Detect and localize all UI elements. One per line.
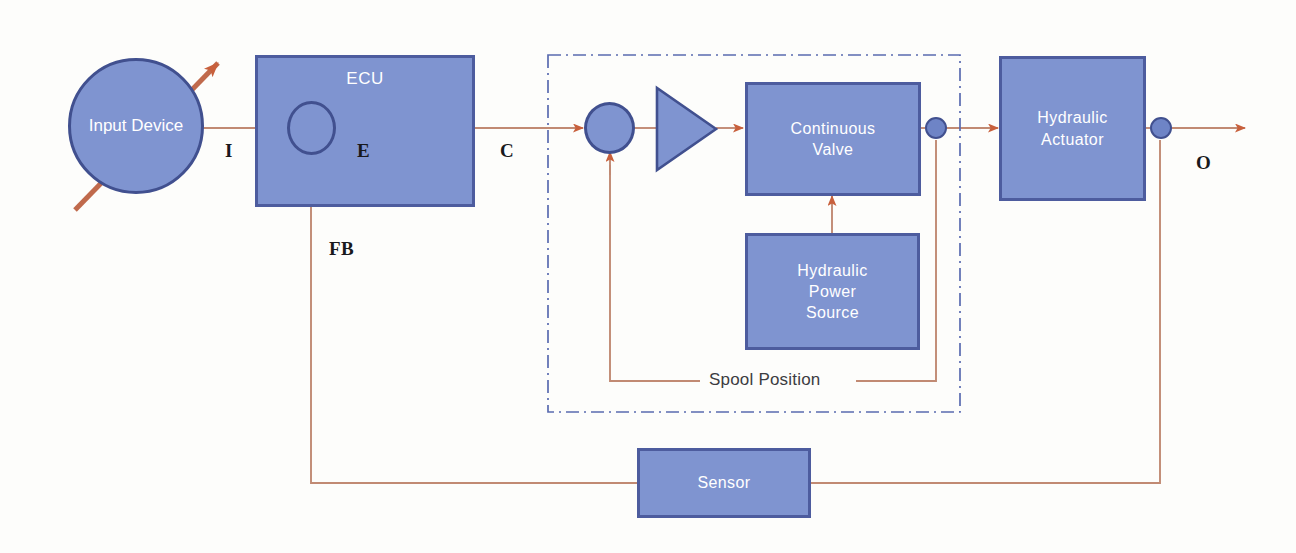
block-hydraulic-power-source[interactable]: Hydraulic Power Source — [745, 233, 920, 350]
sensor-label: Sensor — [697, 472, 750, 493]
continuous-valve-label-line-2: Valve — [791, 139, 876, 160]
hydraulic-power-source-label-line-1: Hydraulic — [797, 260, 867, 281]
annotation-spool-position: Spool Position — [702, 370, 827, 390]
line-spool-feedback-left — [610, 165, 700, 381]
diagram-canvas: Input Device ECU Continuous Valve Hydrau… — [0, 0, 1296, 553]
hydraulic-power-source-label-line-2: Power — [797, 281, 867, 302]
signal-label-O: O — [1196, 152, 1211, 174]
block-valve-summing-junction[interactable] — [584, 102, 635, 154]
valve-amplifier-triangle — [657, 88, 716, 170]
input-device-label-line-2: Device — [131, 116, 183, 135]
node-valve-output — [925, 117, 947, 139]
block-continuous-valve[interactable]: Continuous Valve — [745, 82, 921, 196]
input-device-label-line-1: Input — [89, 116, 127, 135]
hydraulic-actuator-label-line-2: Actuator — [1037, 129, 1107, 150]
node-actuator-output — [1150, 117, 1172, 139]
block-hydraulic-actuator[interactable]: Hydraulic Actuator — [999, 56, 1146, 201]
continuous-valve-label-line-1: Continuous — [791, 118, 876, 139]
hydraulic-actuator-label-line-1: Hydraulic — [1037, 107, 1107, 128]
hydraulic-power-source-label-line-3: Source — [797, 302, 867, 323]
signal-label-FB: FB — [329, 238, 354, 260]
signal-label-C: C — [500, 140, 514, 162]
line-sensor-to-ecu — [311, 178, 637, 483]
block-ecu-summing-junction[interactable] — [287, 101, 336, 155]
ecu-label: ECU — [258, 68, 472, 90]
block-sensor[interactable]: Sensor — [637, 448, 811, 518]
block-input-device[interactable]: Input Device — [68, 58, 204, 194]
signal-label-E: E — [357, 140, 370, 162]
signal-label-I: I — [225, 140, 233, 162]
